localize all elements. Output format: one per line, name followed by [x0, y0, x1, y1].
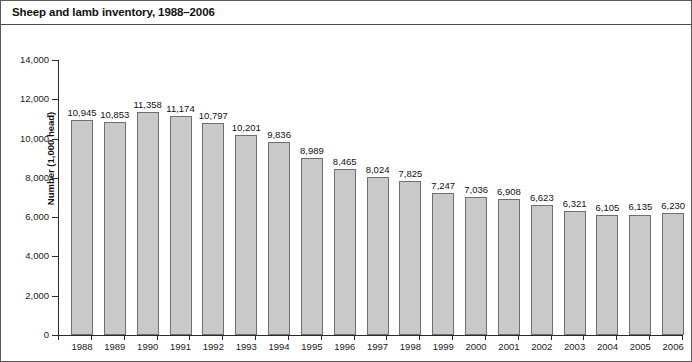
- page-title: Sheep and lamb inventory, 1988–2006: [12, 6, 215, 18]
- x-tick-mark: [583, 335, 584, 340]
- bar-value-label: 8,024: [366, 164, 390, 175]
- x-tick-label: 2006: [663, 341, 684, 352]
- y-tick-label-wrap: 8,000: [1, 172, 49, 184]
- x-tick-mark: [157, 335, 158, 340]
- bar-value-label: 7,036: [464, 184, 488, 195]
- bar: [71, 120, 93, 335]
- y-tick-label-wrap: 0: [1, 329, 49, 341]
- bar: [367, 177, 389, 335]
- bar-value-label: 9,836: [267, 129, 291, 140]
- x-tick-mark: [189, 335, 190, 340]
- bar-value-label: 8,989: [300, 145, 324, 156]
- bar: [334, 169, 356, 335]
- bar-value-label: 11,358: [133, 99, 161, 110]
- bar: [268, 142, 290, 335]
- x-tick-mark: [419, 335, 420, 340]
- x-tick-mark: [386, 335, 387, 340]
- x-tick-label: 1998: [400, 341, 421, 352]
- bar: [104, 122, 126, 335]
- bar: [531, 205, 553, 335]
- bar: [399, 181, 421, 335]
- bar-value-label: 10,945: [67, 107, 96, 118]
- x-tick-mark: [518, 335, 519, 340]
- x-tick-label: 1999: [433, 341, 454, 352]
- bar: [137, 112, 159, 335]
- bar-value-label: 6,623: [530, 192, 554, 203]
- bar-value-label: 10,201: [232, 122, 261, 133]
- bar: [629, 215, 651, 336]
- y-tick-label: 4,000: [3, 250, 49, 261]
- bar-value-label: 6,135: [628, 201, 652, 212]
- x-tick-label: 2000: [466, 341, 487, 352]
- x-tick-mark: [288, 335, 289, 340]
- bar: [301, 158, 323, 335]
- x-tick-label: 1997: [367, 341, 388, 352]
- y-tick-label: 2,000: [3, 290, 49, 301]
- x-tick-label: 1990: [137, 341, 158, 352]
- bar: [596, 215, 618, 335]
- bar-value-label: 8,465: [333, 156, 357, 167]
- bar-value-label: 10,797: [199, 110, 228, 121]
- bar-value-label: 7,825: [399, 168, 423, 179]
- x-tick-mark: [616, 335, 617, 340]
- x-tick-label: 1993: [236, 341, 257, 352]
- bar: [498, 199, 520, 335]
- x-tick-mark: [682, 335, 683, 340]
- x-tick-label: 1988: [71, 341, 92, 352]
- bar-value-label: 7,247: [431, 180, 455, 191]
- x-tick-mark: [551, 335, 552, 340]
- chart-figure: Sheep and lamb inventory, 1988–2006 Numb…: [0, 0, 692, 362]
- x-axis-line: [58, 335, 682, 336]
- x-tick-mark: [354, 335, 355, 340]
- y-tick-label: 14,000: [3, 54, 49, 65]
- bar-value-label: 11,174: [166, 103, 194, 114]
- x-tick-label: 1995: [301, 341, 322, 352]
- x-tick-label: 1996: [334, 341, 355, 352]
- bar: [662, 213, 684, 335]
- title-band: Sheep and lamb inventory, 1988–2006: [1, 1, 691, 25]
- y-tick-label-wrap: 6,000: [1, 211, 49, 223]
- x-tick-mark: [452, 335, 453, 340]
- bar: [202, 123, 224, 335]
- bar: [170, 116, 192, 335]
- y-tick-label: 8,000: [3, 172, 49, 183]
- x-tick-mark: [321, 335, 322, 340]
- bar-value-label: 10,853: [100, 109, 129, 120]
- y-tick-label-wrap: 2,000: [1, 290, 49, 302]
- bar: [235, 135, 257, 335]
- x-tick-label: 2002: [531, 341, 552, 352]
- x-tick-mark: [485, 335, 486, 340]
- x-tick-label: 1991: [170, 341, 191, 352]
- y-tick-label-wrap: 14,000: [1, 54, 49, 66]
- bar: [465, 197, 487, 335]
- bar: [432, 193, 454, 335]
- y-tick-label: 10,000: [3, 133, 49, 144]
- x-tick-label: 2001: [498, 341, 519, 352]
- x-tick-label: 1992: [203, 341, 224, 352]
- x-tick-label: 1989: [104, 341, 125, 352]
- y-tick-label-wrap: 4,000: [1, 250, 49, 262]
- x-tick-label: 1994: [268, 341, 289, 352]
- x-tick-label: 2005: [630, 341, 651, 352]
- bar-value-label: 6,908: [497, 186, 521, 197]
- bar: [564, 211, 586, 335]
- x-tick-label: 2004: [597, 341, 618, 352]
- bar-value-label: 6,321: [563, 198, 587, 209]
- y-tick-label-wrap: 10,000: [1, 133, 49, 145]
- y-tick-label-wrap: 12,000: [1, 93, 49, 105]
- x-tick-mark: [124, 335, 125, 340]
- x-tick-mark: [58, 335, 59, 340]
- x-tick-mark: [255, 335, 256, 340]
- y-axis-title: Number (1,000 head): [45, 89, 56, 229]
- bar-value-label: 6,105: [596, 202, 620, 213]
- x-tick-mark: [649, 335, 650, 340]
- x-tick-mark: [222, 335, 223, 340]
- y-tick-label: 6,000: [3, 211, 49, 222]
- bar-value-label: 6,230: [661, 200, 685, 211]
- x-tick-label: 2003: [564, 341, 585, 352]
- x-tick-mark: [91, 335, 92, 340]
- y-tick-label: 0: [3, 329, 49, 340]
- y-tick-label: 12,000: [3, 93, 49, 104]
- plot-area: 10,94510,85311,35811,17410,79710,2019,83…: [58, 60, 682, 335]
